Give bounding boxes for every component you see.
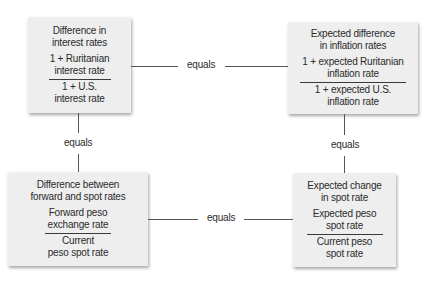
title-line: forward and spot rates (30, 191, 125, 204)
box-title: Expected difference in inflation rates (311, 28, 395, 53)
denominator: Current peso spot rate (317, 235, 372, 261)
denominator-line: 1 + U.S. (54, 81, 104, 94)
box-title: Expected change in spot rate (307, 180, 381, 205)
numerator: 1 + expected Ruritanian inflation rate (300, 56, 405, 82)
numerator-line: spot rate (313, 220, 377, 233)
numerator-line: inflation rate (302, 68, 403, 81)
denominator-line: Current peso (317, 236, 372, 249)
connector-line (131, 66, 178, 67)
equals-label: equals (187, 59, 215, 70)
connector-line (78, 113, 79, 133)
numerator: Expected peso spot rate (311, 208, 379, 234)
box-title: Difference between forward and spot rate… (30, 179, 125, 204)
connector-line (225, 66, 288, 67)
interest-rate-box: Difference in interest rates 1 + Ruritan… (28, 17, 131, 113)
numerator-line: exchange rate (48, 219, 109, 232)
numerator-line: 1 + expected Ruritanian (302, 56, 403, 69)
denominator-line: peso spot rate (48, 247, 109, 260)
numerator-line: interest rate (50, 65, 110, 78)
equals-label: equals (331, 139, 359, 150)
title-line: Difference in (52, 25, 107, 38)
numerator-line: Forward peso (48, 207, 109, 220)
title-line: Expected difference (311, 28, 395, 41)
title-line: Difference between (30, 179, 125, 192)
connector-line (244, 219, 293, 220)
title-line: in spot rate (307, 192, 381, 205)
title-line: in inflation rates (311, 40, 395, 53)
spot-change-box: Expected change in spot rate Expected pe… (293, 173, 396, 267)
connector-line (344, 114, 345, 135)
equals-label: equals (207, 212, 235, 223)
denominator-line: spot rate (317, 248, 372, 261)
numerator: Forward peso exchange rate (46, 207, 111, 233)
numerator-line: 1 + Ruritanian (50, 53, 110, 66)
denominator: 1 + expected U.S. inflation rate (315, 83, 391, 109)
forward-spot-box: Difference between forward and spot rate… (8, 172, 148, 266)
denominator-line: inflation rate (315, 96, 391, 109)
box-title: Difference in interest rates (52, 25, 107, 50)
title-line: Expected change (307, 180, 381, 193)
denominator: 1 + U.S. interest rate (54, 80, 104, 106)
denominator-line: 1 + expected U.S. (315, 84, 391, 97)
inflation-rate-box: Expected difference in inflation rates 1… (288, 22, 418, 114)
denominator: Current peso spot rate (48, 234, 109, 260)
connector-line (78, 154, 79, 172)
title-line: interest rates (52, 37, 107, 50)
connector-line (148, 219, 198, 220)
equals-label: equals (64, 137, 92, 148)
denominator-line: Current (48, 235, 109, 248)
numerator-line: Expected peso (313, 208, 377, 221)
connector-line (344, 156, 345, 173)
numerator: 1 + Ruritanian interest rate (48, 53, 112, 79)
denominator-line: interest rate (54, 93, 104, 106)
